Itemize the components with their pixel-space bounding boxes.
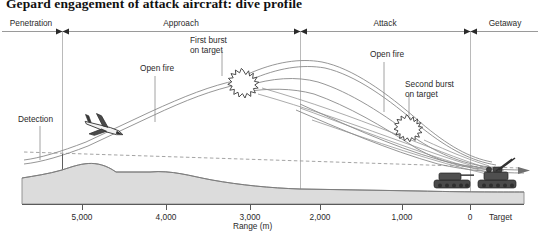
flight-path-arc-3	[246, 79, 500, 168]
burst-star-icon-second	[394, 115, 423, 142]
gun-trajectories	[258, 88, 489, 174]
diagram-root: Gepard engagement of attack aircraft: di…	[0, 0, 540, 236]
range-axis	[22, 205, 524, 211]
diagram-canvas	[0, 0, 540, 236]
tank-silhouette	[434, 173, 474, 188]
leader-lines	[40, 50, 409, 160]
phase-divider-2	[294, 29, 307, 205]
flight-path-arc-1	[248, 61, 492, 163]
flight-path-dive	[24, 80, 238, 160]
burst-star-icon-first	[228, 68, 259, 98]
phase-divider-3	[464, 29, 477, 205]
attack-aircraft-icon	[80, 110, 127, 145]
